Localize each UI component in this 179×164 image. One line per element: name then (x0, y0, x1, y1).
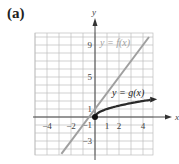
g-label: y = g(x) (111, 87, 145, 99)
x-axis-arrow-icon (165, 115, 172, 120)
x-tick-label: 1 (105, 121, 110, 131)
x-tick-label: −2 (66, 121, 76, 131)
graph: x y −4−2124951−1−3 y = f(x) y = g(x) (0, 0, 179, 164)
x-tick-label: 4 (141, 121, 146, 131)
g-curve (95, 100, 150, 117)
g-start-point (92, 114, 98, 120)
y-tick-label: 5 (88, 72, 93, 82)
y-tick-label: −3 (82, 136, 92, 146)
y-axis-arrow-icon (93, 18, 98, 26)
y-axis-name: y (91, 7, 96, 17)
x-tick-label: 2 (117, 121, 122, 131)
x-axis-name: x (174, 112, 179, 122)
g-curve-arrow-icon (150, 97, 157, 103)
x-tick-label: −4 (42, 121, 52, 131)
y-tick-label: 9 (88, 40, 93, 50)
f-label: y = f(x) (99, 37, 131, 49)
